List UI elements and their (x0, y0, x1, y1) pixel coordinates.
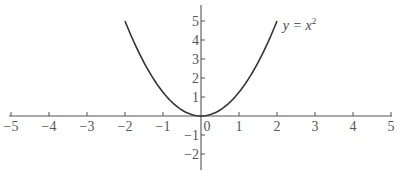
function-label: y = x2 (281, 16, 316, 33)
y-tick-label: 5 (192, 14, 199, 29)
x-tick-label: 2 (274, 119, 281, 134)
x-tick-label: −3 (80, 119, 95, 134)
x-tick-label: −5 (4, 119, 19, 134)
y-tick-label: 3 (192, 52, 199, 67)
parabola-chart: −5−4−3−2−1012345 −2−112345 y = x2 (0, 0, 397, 171)
x-tick-label: −4 (42, 119, 57, 134)
x-tick-label: 4 (350, 119, 357, 134)
function-label-exponent: 2 (312, 16, 317, 26)
x-tick-label: −2 (118, 119, 133, 134)
x-tick-label: 0 (204, 119, 211, 134)
y-tick-label: 1 (192, 90, 199, 105)
function-label-text: y = x (281, 18, 313, 33)
x-tick-label: −1 (156, 119, 171, 134)
x-tick-label: 5 (388, 119, 395, 134)
y-tick-label: −2 (184, 147, 199, 162)
y-tick-label: −1 (184, 128, 199, 143)
y-tick-label: 4 (192, 33, 199, 48)
y-axis-ticks: −2−112345 (184, 14, 205, 162)
x-tick-label: 3 (312, 119, 319, 134)
x-tick-label: 1 (236, 119, 243, 134)
y-tick-label: 2 (192, 71, 199, 86)
